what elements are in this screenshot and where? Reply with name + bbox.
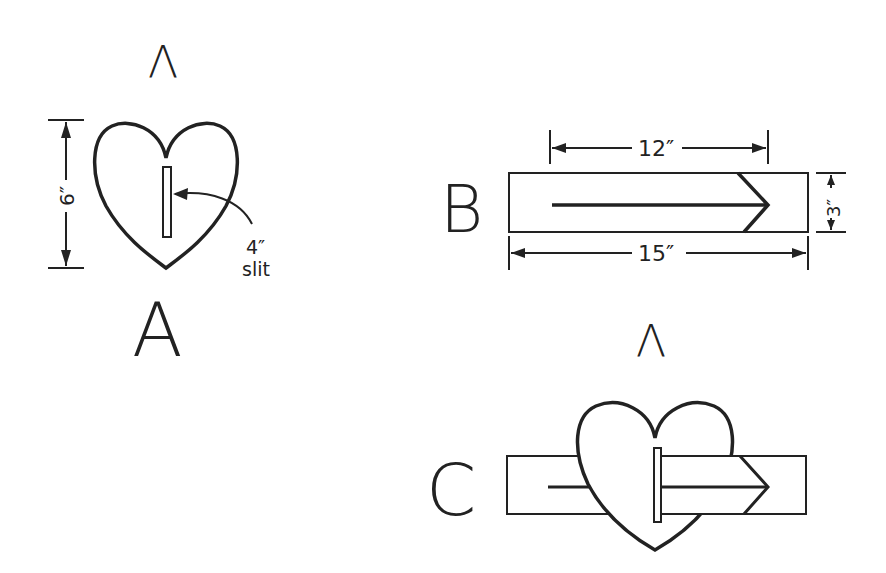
slit-size-label: 4″ (246, 236, 265, 258)
slit-a (163, 167, 171, 237)
panel-label-b: B (440, 171, 483, 248)
slit-pointer-head (173, 188, 188, 200)
arrow-length-label: 12″ (638, 136, 674, 161)
height-label-a: 6″ (55, 186, 79, 206)
strip-b (509, 173, 808, 232)
panel-c: C (426, 403, 806, 550)
diagram-canvas: Λ 6″ 4″ slit A B (0, 0, 886, 573)
panel-label-a: A (132, 287, 183, 373)
slit-word-label: slit (242, 258, 270, 280)
strip-length-label: 15″ (638, 241, 674, 266)
strip-height-label: 3″ (823, 199, 844, 217)
panel-label-c: C (426, 448, 476, 532)
caret-mark-bottom: Λ (636, 316, 666, 367)
panel-a: 6″ 4″ slit A (48, 120, 270, 373)
panel-b: B 12″ 3″ (440, 130, 846, 270)
arrow-head-b (738, 173, 768, 232)
strip-front-c (656, 456, 806, 514)
caret-mark-top: Λ (148, 37, 178, 88)
slit-c (654, 448, 661, 522)
